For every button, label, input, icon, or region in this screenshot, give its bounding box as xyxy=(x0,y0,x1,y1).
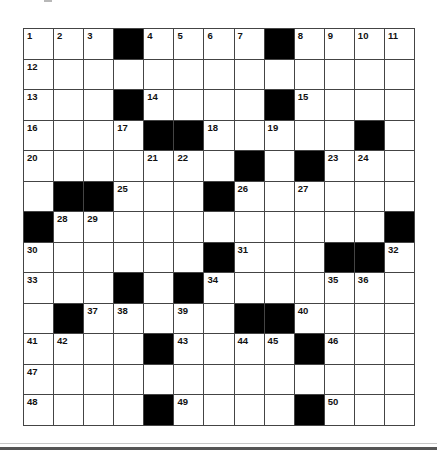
crossword-cell[interactable]: 32 xyxy=(385,243,415,274)
crossword-cell[interactable] xyxy=(235,273,265,304)
crossword-cell[interactable] xyxy=(385,365,415,396)
crossword-cell[interactable] xyxy=(235,365,265,396)
crossword-cell[interactable]: 44 xyxy=(235,334,265,365)
crossword-cell[interactable] xyxy=(295,121,325,152)
crossword-cell[interactable]: 16 xyxy=(24,121,54,152)
crossword-cell[interactable] xyxy=(54,60,84,91)
crossword-cell[interactable]: 48 xyxy=(24,395,54,426)
crossword-cell[interactable] xyxy=(144,365,174,396)
crossword-cell[interactable]: 34 xyxy=(204,273,234,304)
crossword-cell[interactable]: 22 xyxy=(174,151,204,182)
crossword-cell[interactable] xyxy=(385,60,415,91)
crossword-cell[interactable]: 39 xyxy=(174,304,204,335)
crossword-cell[interactable] xyxy=(84,365,114,396)
crossword-cell[interactable] xyxy=(265,243,295,274)
crossword-cell[interactable] xyxy=(114,243,144,274)
crossword-cell[interactable] xyxy=(325,365,355,396)
crossword-cell[interactable]: 46 xyxy=(325,334,355,365)
crossword-cell[interactable]: 10 xyxy=(355,29,385,60)
crossword-cell[interactable] xyxy=(114,60,144,91)
crossword-cell[interactable] xyxy=(385,273,415,304)
crossword-cell[interactable] xyxy=(144,182,174,213)
crossword-cell[interactable] xyxy=(24,304,54,335)
crossword-cell[interactable] xyxy=(144,60,174,91)
crossword-cell[interactable]: 23 xyxy=(325,151,355,182)
crossword-cell[interactable]: 49 xyxy=(174,395,204,426)
crossword-cell[interactable]: 35 xyxy=(325,273,355,304)
crossword-cell[interactable]: 47 xyxy=(24,365,54,396)
crossword-cell[interactable] xyxy=(385,182,415,213)
crossword-cell[interactable] xyxy=(265,60,295,91)
crossword-cell[interactable] xyxy=(54,365,84,396)
crossword-cell[interactable] xyxy=(355,182,385,213)
crossword-cell[interactable] xyxy=(265,395,295,426)
crossword-cell[interactable]: 15 xyxy=(295,90,325,121)
crossword-cell[interactable] xyxy=(235,212,265,243)
crossword-cell[interactable] xyxy=(204,395,234,426)
crossword-cell[interactable] xyxy=(84,90,114,121)
crossword-cell[interactable] xyxy=(84,243,114,274)
crossword-cell[interactable] xyxy=(144,212,174,243)
crossword-cell[interactable] xyxy=(54,273,84,304)
crossword-cell[interactable] xyxy=(144,243,174,274)
crossword-cell[interactable] xyxy=(265,273,295,304)
crossword-cell[interactable] xyxy=(114,151,144,182)
crossword-cell[interactable] xyxy=(204,212,234,243)
crossword-cell[interactable] xyxy=(204,334,234,365)
crossword-cell[interactable]: 37 xyxy=(84,304,114,335)
crossword-cell[interactable] xyxy=(295,273,325,304)
crossword-cell[interactable] xyxy=(24,182,54,213)
crossword-cell[interactable] xyxy=(385,395,415,426)
crossword-cell[interactable] xyxy=(114,365,144,396)
crossword-cell[interactable] xyxy=(385,90,415,121)
crossword-cell[interactable] xyxy=(235,60,265,91)
crossword-cell[interactable] xyxy=(385,304,415,335)
crossword-cell[interactable]: 27 xyxy=(295,182,325,213)
crossword-cell[interactable]: 8 xyxy=(295,29,325,60)
crossword-cell[interactable]: 38 xyxy=(114,304,144,335)
crossword-cell[interactable]: 41 xyxy=(24,334,54,365)
crossword-cell[interactable] xyxy=(355,90,385,121)
crossword-cell[interactable] xyxy=(265,365,295,396)
crossword-cell[interactable] xyxy=(295,60,325,91)
crossword-cell[interactable] xyxy=(325,182,355,213)
crossword-cell[interactable]: 20 xyxy=(24,151,54,182)
crossword-cell[interactable]: 11 xyxy=(385,29,415,60)
crossword-cell[interactable]: 24 xyxy=(355,151,385,182)
crossword-cell[interactable] xyxy=(204,90,234,121)
crossword-cell[interactable] xyxy=(84,151,114,182)
crossword-cell[interactable] xyxy=(295,212,325,243)
crossword-cell[interactable]: 4 xyxy=(144,29,174,60)
crossword-cell[interactable] xyxy=(355,60,385,91)
crossword-cell[interactable] xyxy=(54,121,84,152)
crossword-cell[interactable] xyxy=(144,273,174,304)
crossword-cell[interactable] xyxy=(235,395,265,426)
crossword-cell[interactable] xyxy=(295,365,325,396)
crossword-cell[interactable]: 7 xyxy=(235,29,265,60)
crossword-cell[interactable]: 31 xyxy=(235,243,265,274)
crossword-cell[interactable] xyxy=(84,395,114,426)
crossword-cell[interactable]: 30 xyxy=(24,243,54,274)
crossword-cell[interactable]: 29 xyxy=(84,212,114,243)
crossword-cell[interactable]: 40 xyxy=(295,304,325,335)
crossword-cell[interactable]: 9 xyxy=(325,29,355,60)
crossword-cell[interactable]: 1 xyxy=(24,29,54,60)
crossword-cell[interactable] xyxy=(235,90,265,121)
crossword-cell[interactable] xyxy=(84,273,114,304)
crossword-cell[interactable] xyxy=(325,60,355,91)
crossword-cell[interactable] xyxy=(385,334,415,365)
crossword-cell[interactable] xyxy=(325,90,355,121)
crossword-cell[interactable]: 14 xyxy=(144,90,174,121)
crossword-cell[interactable] xyxy=(54,243,84,274)
crossword-cell[interactable]: 43 xyxy=(174,334,204,365)
crossword-cell[interactable] xyxy=(385,151,415,182)
crossword-cell[interactable] xyxy=(295,243,325,274)
crossword-cell[interactable]: 42 xyxy=(54,334,84,365)
crossword-cell[interactable] xyxy=(114,334,144,365)
crossword-cell[interactable] xyxy=(204,60,234,91)
crossword-cell[interactable] xyxy=(84,121,114,152)
crossword-cell[interactable] xyxy=(174,90,204,121)
crossword-cell[interactable] xyxy=(265,182,295,213)
crossword-cell[interactable]: 19 xyxy=(265,121,295,152)
crossword-cell[interactable]: 3 xyxy=(84,29,114,60)
